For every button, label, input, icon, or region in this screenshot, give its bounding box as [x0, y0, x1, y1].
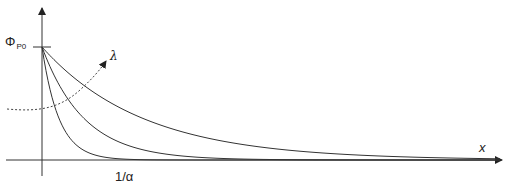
lambda-arrow-icon: [7, 61, 106, 110]
decay-curve-medium: [42, 47, 500, 160]
y-axis-label: ΦP0: [5, 34, 26, 51]
lambda-label: λ: [110, 49, 118, 63]
x-axis-label: x: [479, 140, 486, 155]
decay-diagram: [0, 0, 514, 191]
x-tick-label: 1/α: [115, 169, 133, 184]
decay-curve-long: [42, 47, 500, 159]
decay-curve-short: [42, 47, 500, 160]
